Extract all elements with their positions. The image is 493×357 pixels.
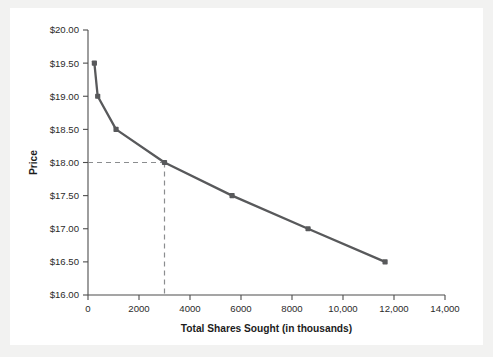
x-axis-tick-label: 14,000	[430, 303, 459, 314]
y-axis-tick-label: $20.00	[50, 24, 79, 35]
x-axis-tick-label: 4000	[179, 303, 200, 314]
y-axis-tick-label: $18.50	[50, 124, 79, 135]
x-axis-title: Total Shares Sought (in thousands)	[181, 323, 352, 334]
data-point-marker	[229, 193, 234, 198]
y-axis-title: Price	[28, 150, 39, 175]
y-axis-tick-label: $16.00	[50, 289, 79, 300]
data-point-marker	[113, 127, 118, 132]
y-axis-tick-labels: $16.00$16.50$17.00$17.50$18.00$18.50$19.…	[50, 24, 79, 300]
x-axis-tick-label: 10,000	[328, 303, 357, 314]
y-axis-tick-label: $19.50	[50, 58, 79, 69]
y-axis-tick-label: $18.00	[50, 157, 79, 168]
y-axis-tick-label: $16.50	[50, 256, 79, 267]
x-axis-tick-label: 0	[85, 303, 90, 314]
data-point-marker	[95, 94, 100, 99]
x-axis-tick-label: 2000	[128, 303, 149, 314]
y-axis-tick-label: $19.00	[50, 91, 79, 102]
x-axis-tick-label: 8000	[281, 303, 302, 314]
x-axis-tick-label: 12,000	[379, 303, 408, 314]
x-axis-ticks	[88, 295, 445, 300]
y-axis-tick-label: $17.00	[50, 223, 79, 234]
y-axis-ticks	[83, 30, 88, 295]
data-point-marker	[162, 160, 167, 165]
x-axis-tick-labels: 0200040006000800010,00012,00014,000	[85, 303, 459, 314]
y-axis-tick-label: $17.50	[50, 190, 79, 201]
data-point-marker	[305, 226, 310, 231]
data-point-marker	[92, 61, 97, 66]
x-axis-tick-label: 6000	[230, 303, 251, 314]
chart-figure: $16.00$16.50$17.00$17.50$18.00$18.50$19.…	[0, 0, 493, 357]
line-chart: $16.00$16.50$17.00$17.50$18.00$18.50$19.…	[0, 0, 493, 357]
data-point-marker	[382, 259, 387, 264]
